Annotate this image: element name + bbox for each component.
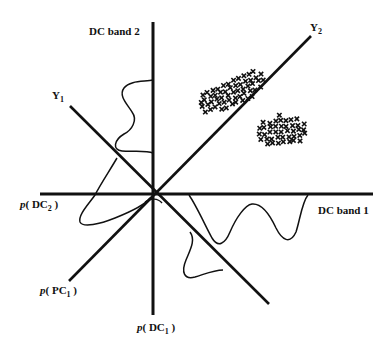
scatter-point <box>292 134 296 138</box>
scatter-point <box>273 124 277 128</box>
scatter-point <box>200 104 204 108</box>
scatter-point <box>268 130 272 134</box>
scatter-point <box>220 107 224 111</box>
scatter-point <box>236 76 240 80</box>
scatter-point <box>246 84 250 88</box>
scatter-point <box>243 79 247 83</box>
scatter-point <box>248 88 252 92</box>
scatter-point <box>277 113 281 117</box>
scatter-point <box>276 141 280 145</box>
scatter-point <box>261 78 265 82</box>
scatter-point <box>231 90 235 94</box>
scatter-point <box>259 137 263 141</box>
scatter-point <box>205 90 209 94</box>
scatter-point <box>236 89 240 93</box>
scatter-point <box>203 110 207 114</box>
scatter-point <box>298 133 302 137</box>
scatter-point <box>279 124 283 128</box>
scatter-point <box>287 135 291 139</box>
y1-label-main: Y <box>52 89 60 101</box>
scatter-point <box>242 74 246 78</box>
scatter-point <box>265 137 269 141</box>
scatter-point <box>241 87 245 91</box>
scatter-point <box>226 93 230 97</box>
scatter-point <box>217 101 221 105</box>
dc-band-1-label: DC band 1 <box>318 204 369 216</box>
scatter-point <box>218 90 222 94</box>
scatter-point <box>298 139 302 143</box>
scatter-point <box>211 88 215 92</box>
scatter-point <box>290 123 294 127</box>
scatter-point <box>278 118 282 122</box>
scatter-point <box>202 98 206 102</box>
scatter-point <box>281 140 285 144</box>
scatter-point <box>224 106 228 110</box>
p-dc1-label: p( DC1 ) <box>136 321 176 336</box>
scatter-point <box>208 107 212 111</box>
scatter-point <box>257 132 261 136</box>
p-dc2-band2-curve <box>115 80 153 153</box>
y1-label-sub: 1 <box>60 95 64 104</box>
scatter-point <box>238 82 242 86</box>
scatter-point <box>240 98 244 102</box>
scatter-point <box>213 105 217 109</box>
y2-label-sub: 2 <box>318 27 322 36</box>
scatter-point <box>269 137 273 141</box>
scatter-point <box>279 130 283 134</box>
scatter-point <box>262 132 266 136</box>
scatter-point <box>231 78 235 82</box>
scatter-point <box>251 69 255 73</box>
scatter-point <box>276 135 280 139</box>
y1-label: Y1 <box>52 89 64 104</box>
scatter-point <box>242 91 246 95</box>
y2-label-main: Y <box>310 21 318 33</box>
scatter-point <box>262 125 266 129</box>
scatter-point <box>281 135 285 139</box>
p-pc1-label: p( PC1 ) <box>39 284 77 299</box>
scatter-point <box>274 130 278 134</box>
scatter-point <box>284 124 288 128</box>
scatter-point <box>209 94 213 98</box>
scatter-point <box>261 120 265 124</box>
y1-axis <box>70 106 269 304</box>
scatter-point <box>233 96 237 100</box>
scatter-point <box>265 142 269 146</box>
scatter-point <box>221 83 225 87</box>
scatter-point <box>297 127 301 131</box>
scatter-point <box>256 78 260 82</box>
scatter-point <box>258 126 262 130</box>
scatter-point <box>201 93 205 97</box>
scatter-point <box>219 96 223 100</box>
scatter-point <box>289 118 293 122</box>
cluster-lower <box>257 113 307 146</box>
scatter-point <box>259 72 263 76</box>
scatter-point <box>296 123 300 127</box>
scatter-point <box>274 119 278 123</box>
scatter-point <box>247 72 251 76</box>
scatter-point <box>302 122 306 126</box>
p-dc2-label: p( DC2 ) <box>19 198 59 213</box>
scatter-point <box>284 118 288 122</box>
p-pc1-curve <box>80 158 150 225</box>
diagram-canvas: DC band 2 DC band 1 Y1 Y2 p( DC2 ) p( PC… <box>0 0 392 353</box>
scatter-point <box>268 125 272 129</box>
scatter-point <box>233 83 237 87</box>
scatter-point <box>209 100 213 104</box>
scatter-point <box>291 129 295 133</box>
scatter-point <box>295 117 299 121</box>
scatter-point <box>270 141 274 145</box>
dc-band-2-label: DC band 2 <box>89 25 140 37</box>
y2-axis <box>69 36 311 281</box>
scatter-point <box>285 128 289 132</box>
scatter-point <box>222 100 226 104</box>
p-dc1-band1-curve <box>189 195 308 244</box>
y2-label: Y2 <box>310 21 322 36</box>
